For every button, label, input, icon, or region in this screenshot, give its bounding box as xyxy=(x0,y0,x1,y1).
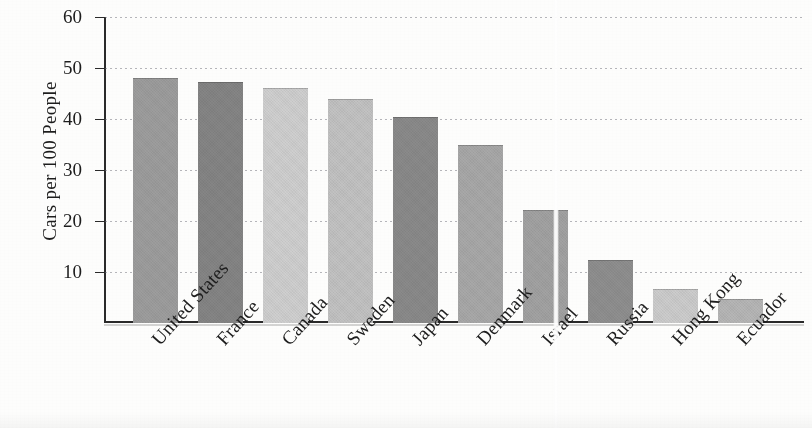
y-axis-tick: 60 xyxy=(95,17,104,18)
y-axis-tick-label: 40 xyxy=(63,108,82,130)
bar-top-edge xyxy=(653,289,698,290)
y-axis-tick: 30 xyxy=(95,170,104,171)
y-axis-tick: 10 xyxy=(95,272,104,273)
bar xyxy=(263,88,308,323)
y-axis-tick: 50 xyxy=(95,68,104,69)
y-axis-tick: 40 xyxy=(95,119,104,120)
bar xyxy=(393,117,438,323)
bar-top-edge xyxy=(328,99,373,100)
bar-top-edge xyxy=(588,260,633,261)
y-axis-tick: 20 xyxy=(95,221,104,222)
y-axis-tick-label: 30 xyxy=(63,159,82,181)
bar-halftone-texture xyxy=(458,145,503,324)
bar xyxy=(328,99,373,323)
bar xyxy=(458,145,503,324)
x-axis-category-labels: United StatesFranceCanadaSwedenJapanDenm… xyxy=(104,323,812,428)
bar-chart-figure: Cars per 100 People 102030405060 United … xyxy=(0,0,812,428)
bar-halftone-texture xyxy=(133,78,178,323)
bar-top-edge xyxy=(133,78,178,79)
bar-top-edge xyxy=(458,145,503,146)
bar-top-edge xyxy=(198,82,243,83)
y-axis-tick-label: 20 xyxy=(63,210,82,232)
y-axis-tick-label: 50 xyxy=(63,57,82,79)
bar-halftone-texture xyxy=(393,117,438,323)
bar-top-edge xyxy=(523,210,568,211)
bar-top-edge xyxy=(393,117,438,118)
bar-halftone-texture xyxy=(328,99,373,323)
bar-halftone-texture xyxy=(263,88,308,323)
bar-top-edge xyxy=(263,88,308,89)
y-axis-tick-label: 60 xyxy=(63,6,82,28)
y-axis-label: Cars per 100 People xyxy=(39,41,61,281)
y-axis-tick-label: 10 xyxy=(63,261,82,283)
bar xyxy=(133,78,178,323)
